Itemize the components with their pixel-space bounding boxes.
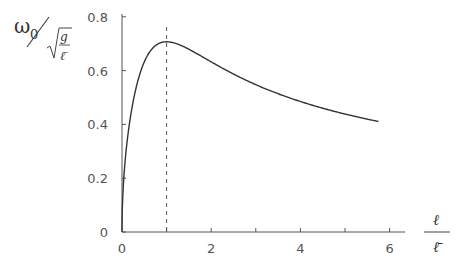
y-tick-label: 0.6 bbox=[87, 64, 108, 79]
y-tick-label: 0.8 bbox=[87, 10, 108, 25]
x-tick-label: 0 bbox=[118, 241, 126, 256]
data-curve bbox=[122, 42, 378, 232]
y-axis-label: ω 0 g ℓ̄ bbox=[14, 14, 72, 63]
y-label-sqrt-num: g bbox=[60, 30, 68, 44]
x-tick-label: 6 bbox=[385, 241, 393, 256]
y-tick-label: 0.2 bbox=[87, 171, 108, 186]
y-label-omega: ω bbox=[14, 14, 30, 38]
x-tick-label: 4 bbox=[296, 241, 304, 256]
x-axis-label: ℓ ℓ̄ bbox=[424, 211, 450, 256]
x-label-denominator: ℓ̄ bbox=[433, 238, 443, 256]
x-label-numerator: ℓ bbox=[433, 211, 439, 229]
y-label-subscript: 0 bbox=[30, 27, 38, 42]
y-ticks: 00.20.40.60.8 bbox=[87, 10, 126, 240]
y-tick-label: 0 bbox=[100, 225, 108, 240]
y-label-sqrt-den: ℓ̄ bbox=[60, 49, 68, 63]
chart: ω 0 g ℓ̄ 00.20.40.60.8 0246 ℓ ℓ̄ bbox=[0, 0, 461, 276]
y-tick-label: 0.4 bbox=[87, 117, 108, 132]
x-tick-label: 2 bbox=[207, 241, 215, 256]
